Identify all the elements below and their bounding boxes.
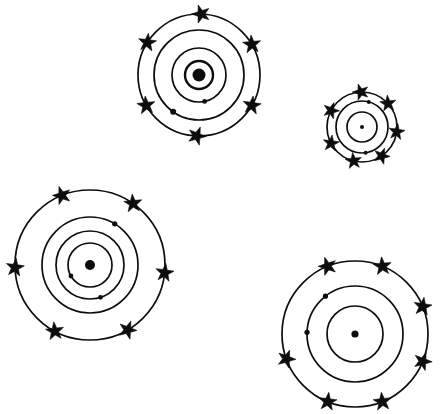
- atom-top-left-electron-1: [170, 109, 176, 115]
- atom-bottom-left-electron-1: [98, 295, 103, 300]
- atom-top-right-star-2: [389, 123, 405, 139]
- atom-top-left-electron-0: [202, 99, 207, 104]
- atom-top-left-star-1: [243, 35, 261, 53]
- atom-top-left-star-4: [137, 96, 155, 114]
- atom-top-left-star-2: [243, 96, 261, 114]
- atom-bottom-right-electron-1: [323, 294, 328, 299]
- atom-bottom-left-star-0: [52, 186, 69, 204]
- atom-bottom-right-star-6: [279, 350, 296, 368]
- atom-bottom-left-star-3: [120, 321, 137, 339]
- atom-bottom-right-nucleus: [351, 330, 358, 337]
- atom-bottom-right-star-0: [318, 257, 335, 275]
- atom-bottom-right-star-4: [373, 392, 391, 410]
- atom-top-right-star-6: [324, 103, 340, 119]
- atom-bottom-left-electron-0: [69, 274, 74, 279]
- atom-top-right: [323, 84, 405, 168]
- atom-top-right-nucleus: [360, 125, 364, 129]
- atom-top-right-electron-1: [364, 151, 368, 155]
- atom-top-left-nucleus: [193, 69, 206, 82]
- atom-top-right-electron-0: [367, 100, 371, 104]
- atom-top-right-star-4: [345, 153, 361, 169]
- atom-bottom-left-electron-2: [112, 221, 117, 226]
- atom-bottom-left-star-4: [46, 322, 64, 340]
- atom-bottom-right-star-5: [319, 392, 337, 410]
- atom-bottom-left: [6, 186, 174, 340]
- atom-bottom-right-star-1: [373, 257, 391, 275]
- atom-top-left: [137, 5, 261, 145]
- atom-bottom-right-star-3: [415, 352, 432, 370]
- atom-bottom-right: [279, 257, 433, 410]
- atom-bottom-right-electron-0: [304, 330, 309, 335]
- atom-bottom-left-nucleus: [85, 260, 95, 270]
- atom-top-right-star-5: [323, 135, 339, 151]
- atom-bottom-right-star-2: [414, 297, 432, 315]
- atom-top-left-star-5: [139, 33, 157, 51]
- diagram-canvas: [0, 0, 443, 414]
- atom-bottom-left-star-2: [156, 263, 174, 281]
- atom-diagram-scene: [0, 0, 443, 414]
